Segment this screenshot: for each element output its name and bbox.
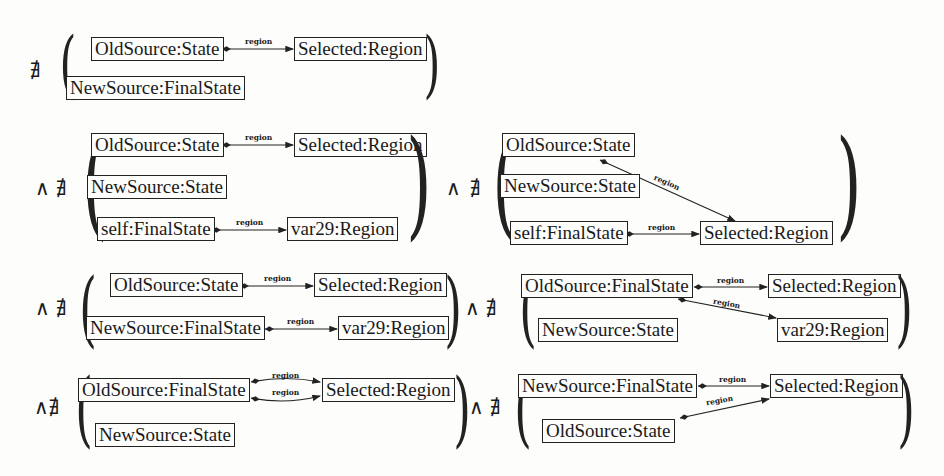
paren-open: ( <box>75 362 93 456</box>
node-oldsource-finalstate: OldSource:FinalState <box>521 274 693 298</box>
node-oldsource-finalstate: OldSource:FinalState <box>78 378 250 402</box>
node-self-finalstate: self:FinalState <box>510 221 628 245</box>
node-newsource-finalstate: NewSource:FinalState <box>86 316 265 340</box>
paren-close: ) <box>836 118 861 248</box>
edge-label: region <box>245 134 272 142</box>
paren-close: ) <box>895 262 913 356</box>
node-selected-region: Selected:Region <box>768 274 901 298</box>
and-not-exists-symbol: ∧ ∄ <box>35 178 67 198</box>
node-newsource-finalstate: NewSource:FinalState <box>66 76 245 100</box>
node-newsource-state: NewSource:State <box>538 318 678 342</box>
not-exists-symbol: ∄ <box>470 178 481 198</box>
paren-close: ) <box>424 22 441 106</box>
node-oldsource-state: OldSource:State <box>91 37 224 61</box>
and-symbol: ∧ <box>446 178 461 198</box>
edge-label: region <box>287 318 314 326</box>
edge-label: region <box>272 372 299 380</box>
node-oldsource-state: OldSource:State <box>110 273 243 297</box>
edge-label: region <box>272 389 299 397</box>
node-selected-region: Selected:Region <box>294 37 427 61</box>
paren-close: ) <box>897 362 915 456</box>
node-newsource-state: NewSource:State <box>87 175 227 199</box>
paren-open: ( <box>79 262 97 356</box>
node-newsource-state: NewSource:State <box>500 174 640 198</box>
node-var29-region: var29:Region <box>338 316 449 340</box>
node-oldsource-state: OldSource:State <box>502 133 635 157</box>
and-not-exists-symbol: ∧ ∄ <box>469 397 501 417</box>
node-self-finalstate: self:FinalState <box>97 217 215 241</box>
edge-label: region <box>717 277 744 285</box>
and-not-exists-symbol: ∧ ∄ <box>35 298 67 318</box>
and-not-exists-symbol: ∧∄ <box>34 397 60 417</box>
node-var29-region: var29:Region <box>287 217 398 241</box>
node-selected-region: Selected:Region <box>700 221 833 245</box>
not-exists-symbol: ∄ <box>30 60 41 80</box>
node-oldsource-state: OldSource:State <box>91 133 224 157</box>
node-newsource-finalstate: NewSource:FinalState <box>518 374 697 398</box>
node-oldsource-state: OldSource:State <box>542 419 675 443</box>
node-selected-region: Selected:Region <box>322 378 455 402</box>
edge-label: region <box>648 224 675 232</box>
paren-close: ) <box>444 262 462 356</box>
node-selected-region: Selected:Region <box>314 273 447 297</box>
paren-close: ) <box>406 118 431 248</box>
edge-label: region <box>264 275 291 283</box>
node-newsource-state: NewSource:State <box>95 423 235 447</box>
node-var29-region: var29:Region <box>777 318 888 342</box>
node-selected-region: Selected:Region <box>770 374 903 398</box>
and-not-exists-symbol: ∧ ∄ <box>465 298 497 318</box>
edge-label: region <box>245 38 272 46</box>
edge-label: region <box>236 219 263 227</box>
edge-label: region <box>719 376 746 384</box>
